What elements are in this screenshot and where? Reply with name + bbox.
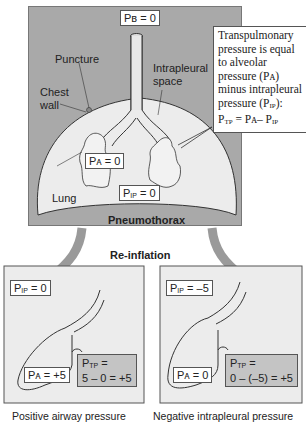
left-caption: Positive airway pressure	[12, 410, 126, 422]
ip-value: = 0	[140, 187, 156, 199]
note-line: minus intrapleural	[218, 83, 304, 97]
intrapleural-pressure-label: PIP = 0	[119, 185, 160, 201]
note-line: pressure (Pᴀ)	[218, 70, 304, 84]
left-alveolar-pressure: Pᴀ = +5	[24, 367, 70, 383]
chest-wall-label: Chest wall	[40, 86, 76, 112]
right-alveolar-pressure: Pᴀ = 0	[173, 367, 212, 383]
note-formula: PTP = Pᴀ– PIP	[218, 113, 304, 130]
reinflation-label: Re-inflation	[110, 249, 171, 261]
note-line: pressure (PIP):	[218, 97, 304, 114]
bronchus-pressure-label: Pʙ = 0	[120, 10, 160, 26]
note-line: Transpulmonary	[218, 29, 304, 43]
ip-subscript: IP	[130, 192, 137, 199]
lung-label: Lung	[52, 192, 76, 204]
right-ip-pressure: PIP = –5	[166, 280, 213, 296]
right-caption: Negative intrapleural pressure	[153, 410, 293, 422]
left-transpulmonary-box: PTP = 5 – 0 = +5	[77, 354, 137, 387]
intrapleural-space-label: Intrapleural space	[153, 62, 203, 88]
transpulmonary-note: Transpulmonary pressure is equal to alve…	[213, 26, 306, 133]
note-line: pressure is equal	[218, 43, 304, 57]
note-line: to alveolar	[218, 56, 304, 70]
pneumothorax-label: Pneumothorax	[108, 214, 185, 226]
left-ip-pressure: PIP = 0	[10, 280, 51, 296]
alveolar-pressure-label: Pᴀ = 0	[85, 153, 124, 169]
puncture-label: Puncture	[55, 53, 99, 65]
right-transpulmonary-box: PTP = 0 – (–5) = +5	[225, 354, 298, 387]
